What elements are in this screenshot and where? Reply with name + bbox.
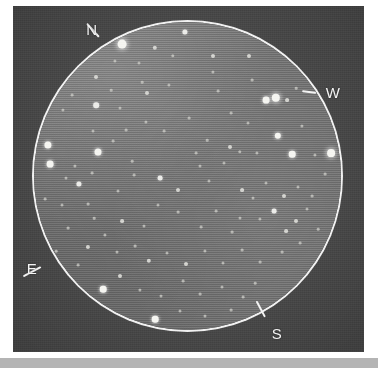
star-point (55, 250, 58, 253)
star-point (272, 209, 277, 214)
compass-label-east: E (27, 261, 38, 276)
star-chart-page: NWES (0, 0, 378, 368)
star-point (176, 188, 180, 192)
star-point (113, 59, 116, 62)
star-point (275, 133, 281, 139)
star-point (147, 259, 151, 263)
star-point (100, 286, 107, 293)
star-point (247, 122, 250, 125)
star-point (208, 180, 211, 183)
compass-label-south: S (272, 326, 283, 341)
star-point (211, 70, 214, 73)
star-point (93, 102, 99, 108)
star-point (77, 264, 80, 267)
star-point (120, 219, 124, 223)
star-point (311, 195, 314, 198)
star-point (247, 54, 251, 58)
star-point (211, 54, 215, 58)
star-point (242, 296, 245, 299)
star-point (254, 282, 257, 285)
star-point (200, 226, 203, 229)
star-point (199, 293, 202, 296)
star-point (160, 295, 163, 298)
star-point (110, 89, 113, 92)
star-point (182, 29, 187, 34)
star-point (118, 274, 122, 278)
star-point (85, 309, 88, 312)
star-point (289, 151, 296, 158)
star-point (221, 286, 224, 289)
page-bottom-strip (0, 358, 378, 368)
star-point (199, 165, 202, 168)
star-point (282, 194, 286, 198)
star-point (206, 139, 209, 142)
compass-label-west: W (326, 85, 341, 100)
star-point (241, 249, 244, 252)
star-point (91, 172, 94, 175)
star-point (157, 204, 160, 207)
star-point (177, 211, 180, 214)
star-point (300, 124, 303, 127)
star-point (317, 228, 320, 231)
star-point (265, 182, 268, 185)
star-point (281, 251, 284, 254)
printed-plate: NWES (13, 6, 364, 352)
star-point (93, 217, 96, 220)
star-point (65, 177, 68, 180)
star-point (153, 46, 157, 50)
star-point (61, 204, 64, 207)
star-point (163, 130, 166, 133)
star-point (86, 245, 90, 249)
star-point (231, 231, 234, 234)
star-point (143, 225, 146, 228)
star-point (171, 54, 174, 57)
star-point (215, 210, 218, 213)
star-point (44, 141, 51, 148)
star-point (61, 108, 64, 111)
star-point (118, 40, 127, 49)
star-point (119, 107, 122, 110)
star-point (306, 208, 309, 211)
star-point (71, 94, 74, 97)
star-point (152, 316, 159, 323)
star-point (94, 75, 98, 79)
star-point (138, 62, 141, 65)
star-point (239, 217, 242, 220)
star-point (134, 245, 137, 248)
star-point (166, 252, 169, 255)
star-point (204, 315, 207, 318)
star-point (203, 249, 206, 252)
field-halftone-grain (34, 22, 341, 330)
star-point (144, 120, 147, 123)
star-point (116, 251, 119, 254)
star-point (112, 140, 115, 143)
star-point (263, 97, 270, 104)
star-point (297, 186, 300, 189)
star-point (158, 176, 163, 181)
star-point (228, 145, 232, 149)
star-point (285, 98, 289, 102)
star-point (87, 203, 90, 206)
star-point (117, 190, 120, 193)
star-point (184, 262, 188, 266)
star-point (251, 79, 254, 82)
star-point (255, 151, 258, 154)
star-point (272, 94, 280, 102)
star-point (230, 112, 233, 115)
star-point (47, 161, 54, 168)
star-point (295, 87, 298, 90)
star-point (131, 160, 134, 163)
star-point (133, 174, 136, 177)
star-point (179, 310, 182, 313)
star-point (240, 188, 244, 192)
star-point (138, 288, 141, 291)
field-of-view-circle (34, 22, 341, 330)
star-point (252, 197, 255, 200)
star-point (67, 227, 70, 230)
star-point (182, 280, 185, 283)
star-point (95, 149, 102, 156)
star-point (324, 173, 327, 176)
star-point (145, 91, 149, 95)
star-point (141, 81, 144, 84)
star-point (222, 262, 225, 265)
